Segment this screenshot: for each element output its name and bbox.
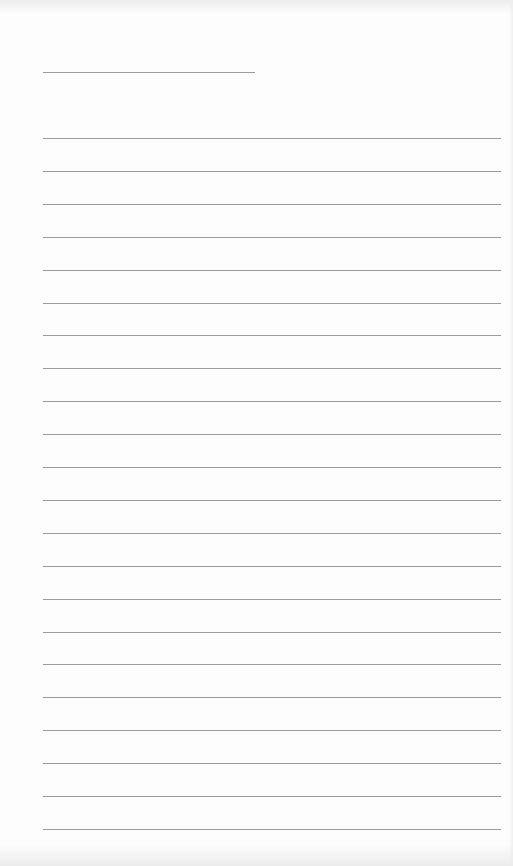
ruled-line [43,368,501,369]
ruled-line [43,500,501,501]
ruled-line [43,664,501,665]
lined-paper-page [0,0,513,866]
ruled-line [43,730,501,731]
ruled-line [43,829,501,830]
ruled-line [43,138,501,139]
ruled-line [43,303,501,304]
header-line [43,72,255,73]
ruled-line [43,270,501,271]
scan-shadow-right [509,0,513,866]
ruled-line [43,467,501,468]
ruled-line [43,335,501,336]
scan-shadow-bottom [0,844,513,866]
ruled-line [43,599,501,600]
ruled-line [43,763,501,764]
ruled-line [43,434,501,435]
ruled-line [43,796,501,797]
ruled-line [43,632,501,633]
ruled-line [43,697,501,698]
ruled-line [43,401,501,402]
scan-shadow-top [0,0,513,14]
ruled-line [43,171,501,172]
ruled-line [43,566,501,567]
ruled-line [43,204,501,205]
ruled-line [43,237,501,238]
ruled-line [43,533,501,534]
